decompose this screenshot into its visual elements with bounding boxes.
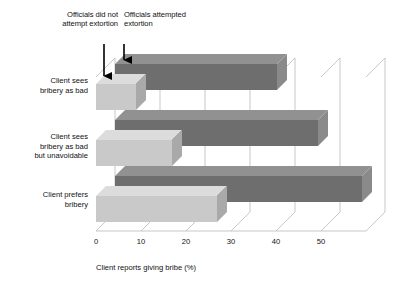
gridline-diagonal-40 — [276, 212, 295, 231]
bar-front-face — [96, 84, 136, 110]
category-label-client-prefers-bribery: Client prefers bribery — [8, 190, 88, 209]
annotation-officials-did-not-attempt-extortion: Officials did not attempt extortion — [22, 10, 118, 29]
gridline-diagonal-30 — [231, 212, 250, 231]
bar-light-client-prefers-bribery — [96, 186, 227, 222]
chart-container: Officials did not attempt extortion Offi… — [0, 0, 409, 287]
gridline-diagonal-50 — [321, 212, 340, 231]
xtick-label-20: 20 — [174, 237, 198, 246]
bar-top-face — [115, 110, 328, 120]
x-axis-title: Client reports giving bribe (%) — [96, 263, 196, 272]
category-label-client-sees-bribery-as-bad: Client sees bribery as bad — [8, 76, 88, 95]
bar-top-face — [96, 130, 182, 140]
bar-top-face — [115, 166, 372, 176]
xtick-label-0: 0 — [84, 237, 108, 246]
bar-top-face — [96, 186, 227, 196]
xtick-label-40: 40 — [264, 237, 288, 246]
xtick-label-30: 30 — [219, 237, 243, 246]
bar-light-client-sees-bribery-as-bad — [96, 74, 146, 110]
category-label-client-sees-bribery-as-bad-but-unavoidable: Client sees bribery as bad but unavoidab… — [8, 132, 88, 161]
xtick-label-50: 50 — [309, 237, 333, 246]
bar-front-face — [96, 140, 172, 166]
gridline-top-diagonal-50 — [321, 58, 340, 77]
bar-front-face — [96, 196, 217, 222]
bar-light-client-sees-bribery-as-bad-but-unavoidable — [96, 130, 182, 166]
xtick-label-10: 10 — [129, 237, 153, 246]
bar-top-face — [115, 54, 287, 64]
annotation-officials-attempted-extortion: Officials attempted extortion — [124, 10, 216, 29]
gridline-top-diagonal-edge — [366, 58, 385, 77]
gridline-diagonal-edge — [366, 212, 385, 231]
